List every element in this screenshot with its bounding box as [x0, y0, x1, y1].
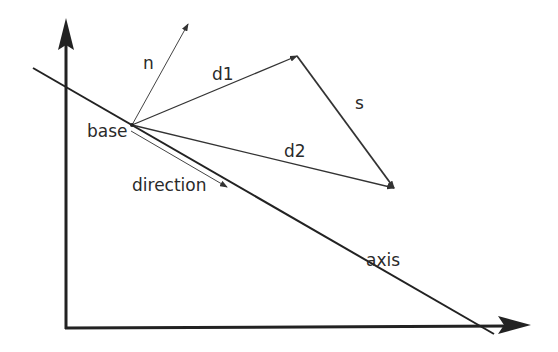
label-d1: d1 [212, 66, 234, 83]
label-axis: axis [366, 252, 400, 269]
base-point [130, 123, 134, 127]
label-s: s [355, 95, 364, 112]
label-d2: d2 [284, 143, 306, 160]
axis-line [33, 68, 494, 334]
label-n: n [143, 55, 154, 72]
diagram-canvas [0, 0, 558, 352]
label-base: base [87, 123, 128, 140]
label-direction: direction [132, 177, 207, 194]
normal-vector-n [132, 24, 188, 125]
x-axis-arrow [65, 316, 531, 334]
y-axis-arrow [58, 18, 74, 329]
